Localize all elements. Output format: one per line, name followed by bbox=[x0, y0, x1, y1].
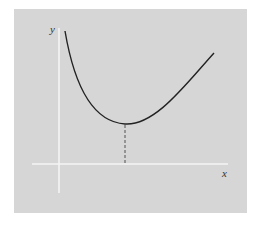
y-axis-label: y bbox=[49, 23, 55, 35]
curve bbox=[65, 31, 214, 124]
graph: y x bbox=[0, 0, 259, 227]
x-axis-label: x bbox=[221, 167, 227, 179]
